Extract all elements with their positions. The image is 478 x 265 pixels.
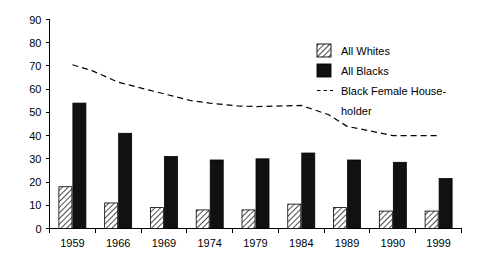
bar-all-blacks: [256, 159, 269, 229]
bar-all-whites: [105, 203, 118, 229]
y-tick-label: 80: [29, 37, 41, 49]
legend-label-all-blacks: All Blacks: [341, 65, 389, 77]
bar-all-blacks: [302, 153, 315, 228]
y-tick-group: 0102030405060708090: [29, 14, 49, 235]
legend-label-black-female-householder-line2: holder: [341, 105, 372, 117]
y-tick-label: 70: [29, 60, 41, 72]
bar-all-whites: [196, 210, 209, 229]
bar-all-whites: [59, 187, 72, 229]
legend-label-all-whites: All Whites: [341, 45, 390, 57]
x-tick-label: 1974: [197, 237, 221, 249]
x-tick-label: 1984: [289, 237, 313, 249]
bar-chart-svg: 0102030405060708090 19591966196919741979…: [0, 0, 478, 265]
bar-all-blacks: [348, 160, 361, 229]
y-axis: 0102030405060708090: [29, 14, 49, 235]
x-tick-label: 1966: [106, 237, 130, 249]
bar-all-blacks: [393, 162, 406, 228]
bar-all-blacks: [439, 179, 452, 229]
legend-label-black-female-householder-line1: Black Female House-: [341, 85, 446, 97]
x-tick-label: 1989: [335, 237, 359, 249]
bar-all-blacks: [119, 133, 132, 228]
bars-group: [59, 103, 452, 228]
x-tick-group: 195919661969197419791984198919901999: [50, 229, 462, 249]
x-axis: 195919661969197419791984198919901999: [50, 229, 462, 249]
bar-all-whites: [288, 204, 301, 228]
bar-all-whites: [425, 211, 438, 228]
bar-all-whites: [379, 211, 392, 228]
chart-container: 0102030405060708090 19591966196919741979…: [0, 0, 478, 265]
bar-all-blacks: [164, 157, 177, 229]
legend: All Whites All Blacks Black Female House…: [317, 44, 446, 117]
y-tick-label: 90: [29, 14, 41, 26]
legend-swatch-all-whites: [317, 44, 331, 57]
y-tick-label: 50: [29, 106, 41, 118]
y-tick-label: 40: [29, 130, 41, 142]
bar-all-whites: [242, 210, 255, 229]
x-tick-label: 1990: [381, 237, 405, 249]
legend-swatch-all-blacks: [317, 64, 331, 77]
y-tick-label: 20: [29, 176, 41, 188]
x-tick-label: 1959: [60, 237, 84, 249]
x-tick-label: 1979: [243, 237, 267, 249]
bar-all-whites: [334, 208, 347, 229]
bar-all-blacks: [73, 103, 86, 228]
y-tick-label: 30: [29, 153, 41, 165]
bar-all-whites: [150, 208, 163, 229]
bar-all-blacks: [210, 160, 223, 229]
x-tick-label: 1969: [152, 237, 176, 249]
y-tick-label: 60: [29, 83, 41, 95]
y-tick-label: 10: [29, 199, 41, 211]
x-tick-label: 1999: [426, 237, 450, 249]
y-tick-label: 0: [35, 223, 41, 235]
